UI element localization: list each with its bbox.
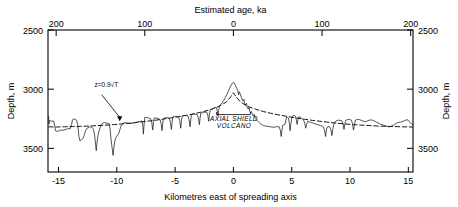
x-axis-title: Kilometres east of spreading axis	[164, 192, 297, 202]
right-y-tick-label: 3000	[418, 85, 438, 95]
bathymetry-profile-figure: -15-10-5051015Kilometres east of spreadi…	[0, 0, 458, 207]
y-tick-label: 3000	[23, 85, 43, 95]
axial-shield-volcano-label-line2: VOLCANO	[217, 122, 251, 129]
x-tick-label: 0	[231, 176, 236, 186]
right-y-axis-title: Depth, m	[441, 83, 451, 120]
x-tick-label: 15	[403, 176, 413, 186]
plot-frame	[48, 30, 413, 172]
y-tick-label: 3500	[23, 144, 43, 154]
top-tick-label: 100	[315, 19, 330, 29]
right-y-tick-label: 2500	[418, 26, 438, 36]
top-tick-label: 100	[137, 19, 152, 29]
x-tick-label: 10	[345, 176, 355, 186]
model-curve-arrow-head	[117, 116, 122, 121]
y-axis-title: Depth, m	[6, 83, 16, 120]
model-curve-arrow-shaft	[102, 95, 120, 118]
sqrt-age-model-label: z=0.9√T	[94, 81, 118, 88]
y-tick-label: 2500	[23, 26, 43, 36]
right-y-tick-label: 3500	[418, 144, 438, 154]
top-tick-label: 200	[403, 19, 418, 29]
top-tick-label: 0	[231, 19, 236, 29]
top-axis-title: Estimated age, ka	[194, 5, 266, 15]
x-tick-label: -10	[110, 176, 123, 186]
x-tick-label: 5	[289, 176, 294, 186]
x-tick-label: -5	[171, 176, 179, 186]
axial-shield-volcano-label-line1: AXIAL SHIELD	[209, 115, 258, 122]
x-tick-label: -15	[52, 176, 65, 186]
top-tick-label: 200	[49, 19, 64, 29]
chart-canvas: -15-10-5051015Kilometres east of spreadi…	[0, 0, 458, 207]
